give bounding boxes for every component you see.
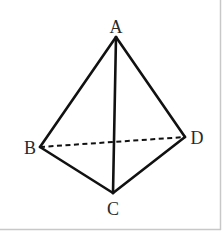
edge-AD <box>116 37 185 137</box>
edge-BC <box>40 147 113 193</box>
vertex-label-b: B <box>24 138 36 158</box>
vertex-label-d: D <box>191 128 204 148</box>
vertex-label-c: C <box>107 199 119 219</box>
tetrahedron-diagram: A B C D <box>0 0 223 233</box>
edge-BD-hidden <box>40 137 185 147</box>
edge-AB <box>40 37 116 147</box>
edge-CD <box>113 137 185 193</box>
edge-AC <box>113 37 116 193</box>
diagram-frame: A B C D <box>0 0 223 233</box>
vertex-label-a: A <box>110 17 123 37</box>
